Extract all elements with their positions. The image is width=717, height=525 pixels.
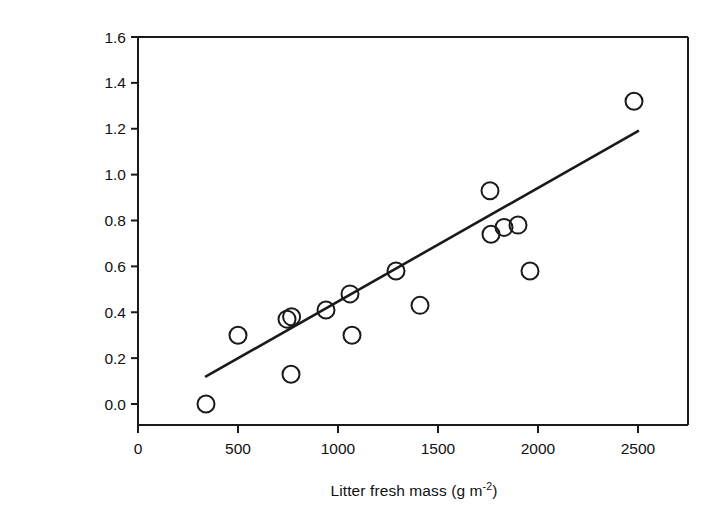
data-point-marker [230,327,247,344]
data-point-marker [342,285,359,302]
x-axis-ticks: 05001000150020002500 [134,425,656,457]
x-tick-label: 1500 [421,440,456,457]
x-tick-label: 0 [134,440,143,457]
data-point-markers [198,93,643,413]
figure-scatter-litter-vs-respiration: Increment in soil respiration (µmol m-2 … [0,0,717,525]
data-point-marker [344,327,361,344]
data-point-marker [283,366,300,383]
y-tick-label: 0.8 [104,212,126,229]
y-tick-label: 1.2 [104,120,126,137]
regression-line [206,131,638,376]
data-point-marker [412,297,429,314]
data-point-marker [510,217,527,234]
x-tick-label: 2000 [521,440,556,457]
data-point-marker [318,301,335,318]
regression-line-segment [206,131,638,376]
y-tick-label: 0.4 [104,304,126,321]
data-point-marker [388,262,405,279]
y-tick-label: 0.0 [104,396,126,413]
data-point-marker [198,396,215,413]
y-tick-label: 1.6 [104,29,126,46]
data-point-marker [283,308,300,325]
y-tick-label: 1.4 [104,74,126,91]
plot-canvas: 0.00.20.40.60.81.01.21.41.6 050010001500… [0,0,717,525]
y-tick-label: 0.6 [104,258,126,275]
x-tick-label: 500 [225,440,251,457]
x-tick-label: 1000 [321,440,356,457]
y-tick-label: 0.2 [104,350,126,367]
data-point-marker [626,93,643,110]
y-tick-label: 1.0 [104,166,126,183]
y-axis-ticks: 0.00.20.40.60.81.01.21.41.6 [104,29,138,413]
data-point-marker [522,262,539,279]
x-tick-label: 2500 [621,440,656,457]
data-point-marker [482,182,499,199]
